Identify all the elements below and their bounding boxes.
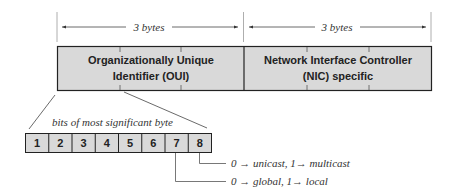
bit-row: 1 2 3 4 5 6 7 8 (26, 134, 212, 153)
nic-label-line2: (NIC) specific (303, 70, 373, 82)
bit-annotations (176, 153, 227, 182)
bits-caption: bits of most significant byte (52, 116, 173, 128)
dimension-label-oui: 3 bytes (133, 21, 165, 33)
dimension-nic: 3 bytes (249, 21, 426, 33)
bit-3: 3 (81, 137, 87, 149)
bit-8-annotation: 0 → unicast, 1→ multicast (231, 157, 351, 169)
dimension-oui: 3 bytes (62, 21, 238, 33)
oui-label-line1: Organizationally Unique (88, 54, 214, 66)
bit-2: 2 (57, 137, 63, 149)
bit-7-connector (176, 153, 227, 182)
bit-6: 6 (150, 137, 156, 149)
bit-4: 4 (104, 137, 111, 149)
nic-label-line1: Network Interface Controller (264, 54, 413, 66)
oui-label-line2: Identifier (OUI) (113, 70, 190, 82)
bit-8-connector (200, 153, 227, 164)
bit-7: 7 (174, 137, 180, 149)
dimension-label-nic: 3 bytes (321, 21, 353, 33)
bit-1: 1 (34, 137, 40, 149)
bit-8: 8 (197, 137, 203, 149)
address-fields: Organizationally Unique Identifier (OUI)… (58, 47, 432, 91)
bit-5: 5 (127, 137, 133, 149)
mac-address-diagram: 3 bytes 3 bytes Organizationally Unique … (0, 0, 454, 195)
bit-7-annotation: 0 → global, 1→ local (231, 175, 328, 187)
